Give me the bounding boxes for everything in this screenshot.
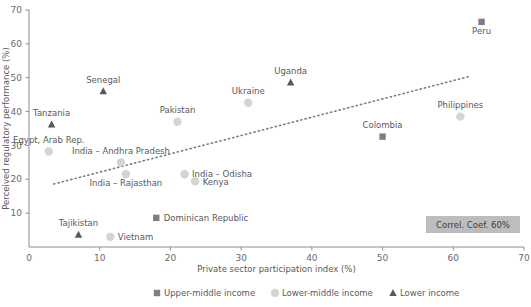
data-point: Philippines [437,100,483,121]
data-point: Tajikistan [58,218,98,237]
y-tick-label: 20 [11,174,23,184]
data-point: Vietnam [106,232,153,242]
y-tick-label: 60 [11,39,23,49]
data-point: Ukraine [232,86,265,107]
point-label: Dominican Republic [164,213,249,223]
legend-label: Upper-middle income [164,288,255,298]
correlation-annotation: Correl. Coef. 60% [426,216,520,233]
y-axis-title: Perceived regulatory performance (%) [1,47,11,209]
x-axis-title: Private sector participation index (%) [197,264,355,274]
point-label: India – Rajasthan [89,178,162,188]
legend-item-lower-middle-income[interactable]: Lower-middle income [271,288,373,298]
x-tick-label: 0 [26,253,32,263]
y-tick-label: 40 [11,107,23,117]
marker-triangle [75,231,82,238]
point-label: Ukraine [232,86,265,96]
chart-canvas: 102030405060700102030405060700 Dominican… [0,0,531,307]
data-point: Uganda [274,66,307,85]
x-tick-label: 50 [377,253,389,263]
axis-lines [29,10,524,247]
marker-circle [244,99,252,107]
data-point: Colombia [363,120,403,140]
point-label: Egypt, Arab Rep. [13,135,84,145]
data-points: Dominican RepublicColombiaPeruEgypt, Ara… [13,19,491,242]
y-tick-label: 70 [11,5,23,15]
x-tick-label: 30 [235,253,247,263]
data-point: Pakistan [160,105,196,126]
point-label: Colombia [363,120,403,130]
marker-circle [122,170,130,178]
x-tick-label: 60 [448,253,460,263]
marker-circle [180,170,188,178]
data-point: Dominican Republic [153,213,248,223]
series-upper-middle-income: Dominican RepublicColombiaPeru [153,19,491,223]
point-label: Peru [472,26,491,36]
data-point: India – Andhra Pradesh [72,146,170,167]
marker-square [478,19,484,25]
x-tick-label: 20 [165,253,177,263]
marker-triangle [100,87,107,94]
data-point: Tanzania [32,108,70,127]
marker-square [154,290,160,296]
marker-square [379,133,385,139]
marker-circle [45,147,53,155]
correlation-text: Correl. Coef. 60% [436,220,510,230]
point-label: Vietnam [118,232,153,242]
marker-circle [117,158,125,166]
x-tick-label: 40 [306,253,318,263]
marker-circle [173,118,181,126]
marker-triangle [287,78,294,85]
y-tick-label: 50 [11,73,23,83]
marker-triangle [389,289,396,296]
legend-label: Lower income [400,288,459,298]
data-point: Peru [472,19,491,36]
marker-square [153,215,159,221]
point-label: Senegal [86,75,120,85]
legend-item-lower-income[interactable]: Lower income [389,288,459,298]
point-label: Uganda [274,66,307,76]
legend-item-upper-middle-income[interactable]: Upper-middle income [154,288,255,298]
point-label: Tanzania [32,108,70,118]
axis-titles: Private sector participation index (%)Pe… [1,47,356,274]
point-label: Kenya [203,177,229,187]
legend-label: Lower-middle income [282,288,373,298]
scatter-chart: 102030405060700102030405060700 Dominican… [0,0,531,307]
x-tick-label: 10 [94,253,106,263]
x-tick-label: 70 [518,253,530,263]
y-tick-label: 10 [11,208,23,218]
marker-circle [456,112,464,120]
point-label: Philippines [437,100,483,110]
point-label: Tajikistan [58,218,98,228]
marker-triangle [48,120,55,127]
data-point: India – Rajasthan [89,170,162,188]
marker-circle [191,177,199,185]
chart-legend: Upper-middle incomeLower-middle incomeLo… [154,288,459,298]
data-point: Kenya [191,177,229,187]
data-point: Senegal [86,75,120,94]
marker-circle [106,233,114,241]
marker-circle [271,289,279,297]
point-label: Pakistan [160,105,196,115]
point-label: India – Andhra Pradesh [72,146,170,156]
